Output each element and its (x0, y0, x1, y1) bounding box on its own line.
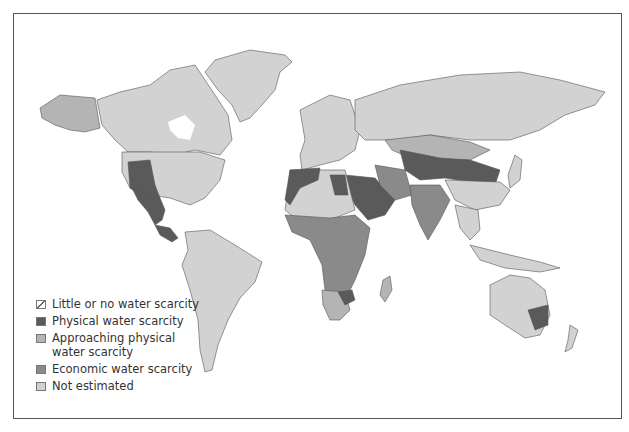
region-japan (508, 155, 522, 188)
region-new-zealand (565, 325, 578, 352)
region-china-south (445, 180, 510, 210)
legend-label: Not estimated (52, 380, 134, 393)
legend-item-little: Little or no water scarcity (36, 298, 199, 311)
region-europe (300, 95, 360, 170)
legend-label: Little or no water scarcity (52, 298, 199, 311)
legend-label: Physical water scarcity (52, 315, 184, 328)
region-central-america (155, 225, 178, 242)
mid-dark-swatch-icon (36, 365, 46, 374)
region-madagascar (380, 276, 392, 302)
region-alaska (40, 95, 100, 132)
legend-label: Economic water scarcity (52, 363, 192, 376)
region-se-asia (455, 205, 480, 240)
light-swatch-icon (36, 382, 46, 391)
region-russia (355, 72, 605, 140)
legend-label: Approaching physicalwater scarcity (52, 332, 175, 358)
legend-item-economic: Economic water scarcity (36, 363, 199, 376)
legend-label-line1: Approaching physical (52, 331, 175, 345)
legend-item-approaching: Approaching physicalwater scarcity (36, 332, 199, 358)
hatched-swatch-icon (36, 300, 46, 309)
legend-item-physical: Physical water scarcity (36, 315, 199, 328)
region-indonesia (470, 245, 560, 272)
region-india (410, 185, 450, 240)
medium-swatch-icon (36, 334, 46, 343)
legend-label-line2: water scarcity (52, 345, 133, 359)
map-legend: Little or no water scarcity Physical wat… (36, 298, 199, 397)
legend-item-not-estimated: Not estimated (36, 380, 199, 393)
dark-swatch-icon (36, 317, 46, 326)
